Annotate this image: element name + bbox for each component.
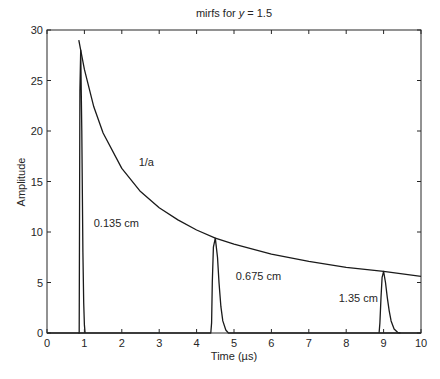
y-axis-label: Amplitude (15, 158, 27, 207)
series-line-0-135-cm (78, 50, 85, 333)
x-tick-label: 4 (194, 337, 200, 349)
x-tick-label: 0 (44, 337, 50, 349)
annotation-label: 0.135 cm (94, 217, 139, 229)
annotation-label: 1.35 cm (339, 292, 378, 304)
x-tick-label: 8 (343, 337, 349, 349)
x-tick-label: 6 (268, 337, 274, 349)
series-line-0-675-cm (47, 238, 421, 333)
y-tick-label: 10 (31, 226, 43, 238)
y-tick-label: 15 (31, 176, 43, 188)
x-tick-label: 2 (119, 337, 125, 349)
annotation-label: 0.675 cm (236, 270, 281, 282)
x-tick-label: 3 (156, 337, 162, 349)
y-tick-label: 25 (31, 75, 43, 87)
y-tick-label: 20 (31, 125, 43, 137)
axes-box (47, 30, 421, 333)
x-tick-label: 9 (381, 337, 387, 349)
chart-title: mirfs for y = 1.5 (196, 7, 272, 19)
series-lines (47, 40, 421, 333)
y-tick-label: 0 (37, 327, 43, 339)
x-tick-label: 7 (306, 337, 312, 349)
x-tick-label: 5 (231, 337, 237, 349)
annotation-label: 1/a (139, 156, 155, 168)
y-tick-label: 30 (31, 24, 43, 36)
series-line-1-a (79, 40, 421, 276)
y-tick-label: 5 (37, 277, 43, 289)
annotations: 1/a0.135 cm0.675 cm1.35 cm (94, 156, 378, 303)
x-axis-label: Time (µs) (211, 350, 257, 362)
x-tick-label: 10 (415, 337, 427, 349)
series-line-1-35-cm (379, 271, 400, 333)
x-tick-label: 1 (81, 337, 87, 349)
chart: mirfs for y = 1.5 1/a0.135 cm0.675 cm1.3… (0, 0, 440, 379)
